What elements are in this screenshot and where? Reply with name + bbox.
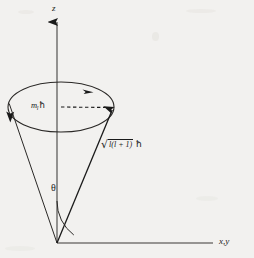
- hbar-symbol: ħ: [136, 139, 142, 149]
- radical-symbol: √: [101, 138, 108, 151]
- radicand-expression: l(l + 1): [108, 139, 133, 149]
- hbar-symbol: ħ: [39, 100, 45, 110]
- cone-left-side: [9, 104, 57, 244]
- xy-axis-label: x,y: [219, 237, 229, 246]
- angular-momentum-figure: z x,y θ mlħ √l(l + 1)ħ: [0, 0, 254, 258]
- z-axis-label: z: [52, 4, 56, 13]
- theta-arc: [57, 201, 74, 235]
- angular-momentum-label: √l(l + 1)ħ: [101, 139, 142, 150]
- theta-angle-label: θ: [51, 183, 56, 193]
- precession-arrow-right-icon: [83, 90, 94, 95]
- z-projection-dashed: [61, 107, 111, 108]
- figure-canvas: [0, 0, 254, 258]
- z-projection-label: mlħ: [31, 101, 45, 111]
